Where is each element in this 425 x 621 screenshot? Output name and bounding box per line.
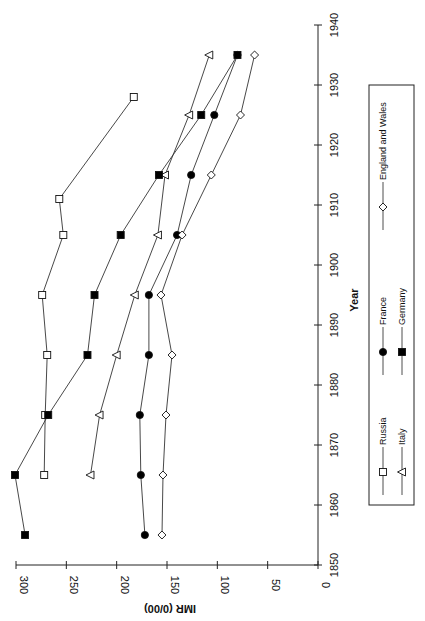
series-russia <box>39 94 138 479</box>
open-triangle-marker <box>153 231 161 239</box>
filled-square-marker <box>198 112 205 119</box>
open-triangle-marker <box>185 111 193 119</box>
axes: 0501001502002503001850186018701880189019… <box>16 13 340 594</box>
imr-tick-label: 200 <box>119 576 131 594</box>
legend-filled-circle-icon <box>379 348 386 355</box>
open-square-marker <box>60 232 67 239</box>
legend-label: Germany <box>397 287 407 325</box>
year-tick-label: 1890 <box>328 313 340 337</box>
open-square-marker <box>41 472 48 479</box>
filled-square-marker <box>117 232 124 239</box>
imr-tick-label: 100 <box>219 576 231 594</box>
imr-axis-title: IMR (0/00) <box>144 603 196 615</box>
year-tick-label: 1900 <box>328 253 340 277</box>
open-triangle-marker <box>86 471 94 479</box>
filled-circle-marker <box>188 171 195 178</box>
year-tick-label: 1920 <box>328 133 340 157</box>
open-square-marker <box>44 352 51 359</box>
legend-open-square-icon <box>380 469 387 476</box>
filled-circle-marker <box>136 411 143 418</box>
open-diamond-marker <box>236 111 244 119</box>
filled-circle-marker <box>137 471 144 478</box>
open-diamond-marker <box>158 531 166 539</box>
filled-square-marker <box>45 412 52 419</box>
legend-box <box>369 85 414 505</box>
imr-tick-label: 0 <box>320 582 332 588</box>
filled-circle-marker <box>211 111 218 118</box>
open-diamond-marker <box>159 471 167 479</box>
filled-square-marker <box>91 292 98 299</box>
series-france <box>136 51 241 538</box>
year-tick-label: 1910 <box>328 193 340 217</box>
open-square-marker <box>39 292 46 299</box>
series-england-and-wales <box>157 51 259 539</box>
series-line <box>15 55 238 535</box>
year-tick-label: 1870 <box>328 433 340 457</box>
open-square-marker <box>56 196 63 203</box>
filled-square-marker <box>84 352 91 359</box>
year-tick-label: 1850 <box>328 553 340 577</box>
filled-square-marker <box>234 52 241 59</box>
series-line <box>140 55 238 535</box>
filled-circle-marker <box>141 531 148 538</box>
legend-label: Russia <box>378 417 388 445</box>
legend-filled-square-icon <box>399 349 406 356</box>
legend-label: England and Wales <box>378 102 388 180</box>
legend-label: Italy <box>397 428 407 445</box>
filled-square-marker <box>22 532 29 539</box>
series-line <box>42 97 134 475</box>
open-square-marker <box>130 94 137 101</box>
filled-square-marker <box>11 472 18 479</box>
series-line <box>161 55 255 535</box>
legend-label: France <box>378 297 388 325</box>
imr-tick-label: 50 <box>270 579 282 591</box>
imr-tick-label: 250 <box>68 576 80 594</box>
open-diamond-marker <box>251 51 259 59</box>
filled-circle-marker <box>145 351 152 358</box>
year-tick-label: 1930 <box>328 73 340 97</box>
series-italy <box>86 51 213 479</box>
filled-circle-marker <box>145 291 152 298</box>
year-tick-label: 1940 <box>328 13 340 37</box>
filled-square-marker <box>155 172 162 179</box>
imr-line-chart: 0501001502002503001850186018701880189019… <box>0 0 425 621</box>
imr-tick-label: 150 <box>169 576 181 594</box>
open-diamond-marker <box>157 291 165 299</box>
open-diamond-marker <box>162 411 170 419</box>
imr-tick-label: 300 <box>18 576 30 594</box>
open-diamond-marker <box>207 171 215 179</box>
open-diamond-marker <box>168 351 176 359</box>
year-tick-label: 1860 <box>328 493 340 517</box>
series-group <box>11 51 258 539</box>
legend: RussiaItalyFranceGermanyEngland and Wale… <box>369 85 414 505</box>
year-axis-title: Year <box>348 288 360 312</box>
year-tick-label: 1880 <box>328 373 340 397</box>
